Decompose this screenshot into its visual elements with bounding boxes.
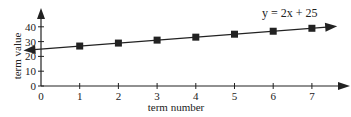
equation-annotation: y = 2x + 25: [262, 6, 318, 20]
data-point-marker: [192, 34, 199, 41]
x-axis-title: term number: [148, 101, 205, 113]
y-tick-label: 0: [31, 80, 37, 92]
y-axis-arrow-icon: [37, 8, 45, 19]
x-tick-label: 2: [116, 90, 122, 102]
y-tick-label: 10: [25, 65, 37, 77]
data-point-marker: [115, 40, 122, 47]
x-tick-label: 0: [38, 90, 44, 102]
data-point-marker: [231, 31, 238, 38]
data-point-marker: [308, 25, 315, 32]
line-chart: 01234567010203040 y = 2x + 25 term numbe…: [0, 0, 351, 117]
x-tick-label: 6: [270, 90, 276, 102]
line-arrow-right-icon: [325, 23, 337, 32]
y-axis-title: term value: [11, 33, 23, 80]
trend-line: [27, 27, 333, 50]
data-point-marker: [154, 37, 161, 44]
x-tick-label: 5: [232, 90, 238, 102]
y-tick-label: 40: [25, 21, 37, 33]
x-tick-label: 1: [77, 90, 83, 102]
x-axis-arrow-icon: [338, 82, 350, 90]
series-line: [23, 23, 337, 54]
axes: [37, 8, 350, 90]
data-point-marker: [76, 43, 83, 50]
x-tick-label: 7: [309, 90, 315, 102]
data-point-marker: [270, 28, 277, 35]
